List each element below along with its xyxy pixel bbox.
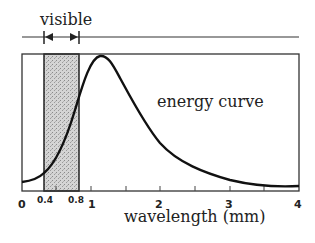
arrow-right-icon [70, 33, 78, 41]
energy-wavelength-chart: visible energy curve 0 0.4 0.8 1 2 3 4 w… [0, 0, 315, 243]
visible-band [44, 54, 79, 191]
tick-label-0.4: 0.4 [37, 195, 53, 205]
visible-label: visible [39, 10, 92, 29]
x-axis-label: wavelength (mm) [124, 207, 266, 226]
energy-curve-label: energy curve [157, 92, 264, 111]
tick-label-0: 0 [18, 198, 26, 211]
visible-range-indicator [22, 31, 299, 44]
tick-label-0.8: 0.8 [68, 195, 84, 205]
tick-label-1: 1 [88, 198, 96, 211]
x-axis-ticks [56, 186, 264, 191]
tick-label-4: 4 [294, 198, 302, 211]
arrow-left-icon [45, 33, 53, 41]
